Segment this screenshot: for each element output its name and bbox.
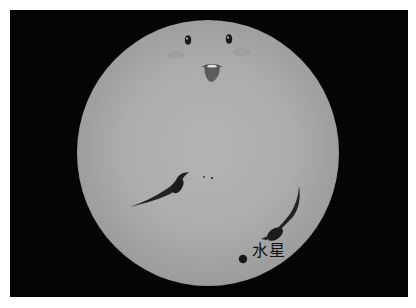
- right-cheek: [233, 48, 251, 56]
- mouth: [204, 66, 220, 83]
- mercury-planet: [239, 255, 247, 263]
- sun-features: [10, 10, 408, 297]
- sunspot-dot: [203, 176, 205, 178]
- right-eye: [226, 34, 232, 44]
- mercury-label: 水星: [252, 243, 286, 259]
- left-cheek: [167, 51, 185, 59]
- right-sunspot-tail: [276, 186, 300, 232]
- space-background: 水星: [10, 10, 408, 297]
- left-eye: [185, 35, 191, 45]
- sunspot-dot: [211, 177, 213, 179]
